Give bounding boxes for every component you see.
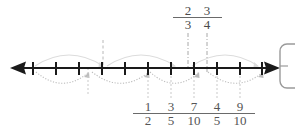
right-rounded-rect-shape <box>280 44 295 88</box>
arcs-below-group <box>36 72 264 83</box>
label-nine-tenths-numerator: 9 <box>225 100 255 114</box>
label-nine-tenths: 9 10 <box>225 100 255 128</box>
label-nine-tenths-denominator: 10 <box>225 114 255 127</box>
arc-above-3-arrowhead <box>254 62 260 68</box>
label-three-fourths-denominator: 4 <box>192 18 222 31</box>
arrow-right-icon <box>264 62 280 75</box>
arc-below-3 <box>150 72 198 83</box>
arrow-left-icon <box>10 62 26 75</box>
arc-below-1 <box>36 72 88 83</box>
number-line-figure: 2 3 3 4 1 2 3 5 7 10 4 5 9 10 <box>0 0 295 134</box>
arc-above-1 <box>35 55 103 66</box>
label-three-fourths-numerator: 3 <box>192 4 222 18</box>
arc-below-2 <box>92 72 148 83</box>
arc-above-3 <box>192 55 258 66</box>
arc-above-2 <box>107 55 175 66</box>
label-three-fourths: 3 4 <box>192 4 222 32</box>
